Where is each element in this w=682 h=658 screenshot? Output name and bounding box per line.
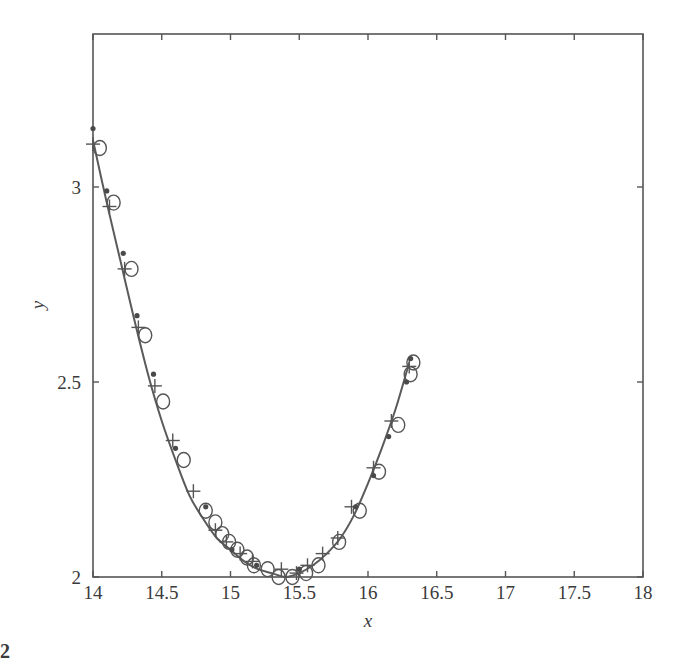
y-axis-ticks	[93, 187, 643, 577]
y-tick-label: 2.5	[57, 372, 81, 393]
series-fit-curve	[93, 140, 409, 577]
dot-marker	[408, 356, 413, 361]
circle-marker	[392, 417, 405, 432]
circle-marker	[177, 453, 190, 468]
x-tick-label: 16.5	[420, 582, 453, 603]
fit-curve-line	[93, 140, 409, 577]
x-tick-label: 16	[359, 582, 378, 603]
y-tick-label: 2	[72, 567, 82, 588]
plus-marker	[86, 137, 100, 151]
plot-frame	[93, 34, 643, 577]
dot-marker	[386, 434, 391, 439]
plot-area-border	[93, 34, 643, 577]
circle-marker	[157, 394, 170, 409]
plus-marker	[233, 547, 247, 561]
x-tick-label: 15.5	[283, 582, 316, 603]
dot-marker	[229, 547, 234, 552]
x-axis-ticks	[93, 34, 643, 577]
y-tick-label: 3	[72, 177, 82, 198]
dot-marker	[353, 504, 358, 509]
dot-marker	[173, 446, 178, 451]
dot-marker	[104, 188, 109, 193]
dot-marker	[404, 379, 409, 384]
x-tick-label: 18	[634, 582, 653, 603]
x-tick-label: 17	[496, 582, 515, 603]
x-tick-label: 14.5	[145, 582, 178, 603]
plus-marker	[384, 414, 398, 428]
y-axis-label: y	[27, 300, 48, 311]
plus-marker	[118, 262, 132, 276]
dot-marker	[90, 126, 95, 131]
series-circles	[93, 141, 420, 585]
dot-marker	[151, 372, 156, 377]
x-tick-label: 14	[84, 582, 104, 603]
y-axis-tick-labels: 22.53	[57, 177, 81, 588]
dot-marker	[121, 251, 126, 256]
plus-marker	[131, 320, 145, 334]
dot-marker	[371, 473, 376, 478]
plus-marker	[103, 200, 117, 214]
series-plus	[86, 137, 416, 580]
dot-marker	[203, 504, 208, 509]
dot-marker	[134, 313, 139, 318]
scatter-chart: 1414.51515.51616.51717.518 22.53 x y	[0, 0, 682, 658]
x-axis-tick-labels: 1414.51515.51616.51717.518	[84, 582, 653, 603]
series-layer	[86, 126, 420, 585]
plus-marker	[166, 434, 180, 448]
plus-marker	[367, 461, 381, 475]
plus-marker	[208, 523, 222, 537]
circle-marker	[333, 534, 346, 549]
figure-label-fragment: 2	[0, 640, 10, 658]
circle-marker	[139, 328, 152, 343]
dot-marker	[254, 563, 259, 568]
x-tick-label: 17.5	[558, 582, 591, 603]
plus-marker	[186, 484, 200, 498]
x-axis-label: x	[363, 610, 373, 631]
x-tick-label: 15	[221, 582, 240, 603]
dot-marker	[297, 567, 302, 572]
